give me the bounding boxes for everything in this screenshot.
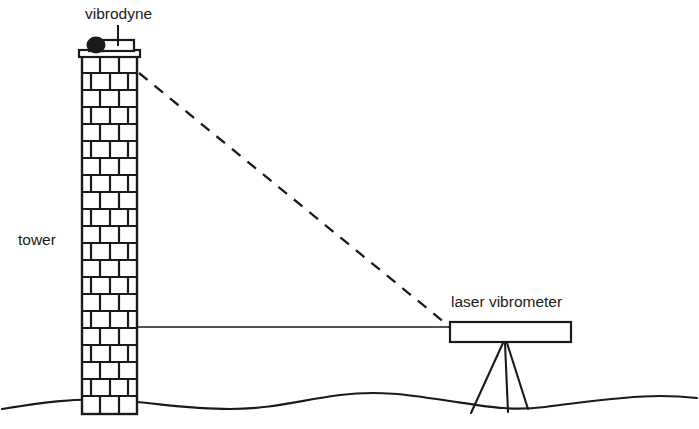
diagram-canvas: vibrodyne tower laser vibrometer [0,0,699,429]
laser-vibrometer-device [450,322,571,413]
tripod-legs [471,343,528,413]
diagram-root: vibrodyne tower laser vibrometer [0,0,699,429]
tripod-leg-right [507,343,528,409]
tripod-leg-left [471,343,503,413]
tripod-leg-center [505,343,508,412]
vibrodyne-device [79,38,140,58]
laser-vibrometer-body [450,322,571,342]
tower-label: tower [18,231,56,248]
vibrodyne-label: vibrodyne [85,5,152,22]
laser-beam-dashed-line [139,73,450,327]
laser-vibrometer-label: laser vibrometer [451,293,562,310]
tower [82,56,137,414]
